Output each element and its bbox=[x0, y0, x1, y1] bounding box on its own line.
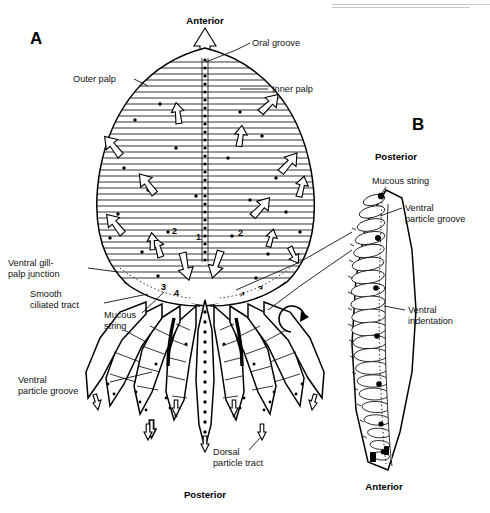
label-ventral-gill-palp-junction-line1: Ventral gill- bbox=[8, 258, 53, 268]
label-mucous-string-line1: Mucous bbox=[104, 310, 137, 320]
label-smooth-ciliated-tract-line1: Smooth bbox=[30, 289, 62, 299]
label-ventral-indentation-line1: Ventral bbox=[408, 305, 437, 315]
panel-b-posterior-label: Posterior bbox=[375, 151, 417, 162]
label-ventral-particle-groove-b-line1: Ventral bbox=[405, 203, 434, 213]
anatomical-diagram: A Anterior bbox=[0, 0, 490, 513]
label-ventral-particle-groove-a-line1: Ventral bbox=[18, 375, 47, 385]
leader-dorsal-particle-tract bbox=[249, 438, 260, 450]
label-mucous-string-line2: string bbox=[104, 321, 126, 331]
label-dorsal-particle-tract-line1: Dorsal bbox=[213, 447, 240, 457]
pathway-number-2-right: 2 bbox=[238, 228, 243, 238]
panel-a: A Anterior bbox=[8, 15, 324, 500]
label-ventral-particle-groove-a-line2: particle groove bbox=[18, 386, 78, 396]
panel-a-anterior-label: Anterior bbox=[186, 15, 224, 26]
label-inner-palp: Inner palp bbox=[272, 84, 313, 94]
scan-artifact-line bbox=[332, 5, 490, 8]
panel-b: B Posterior bbox=[348, 115, 465, 492]
label-ventral-indentation-line2: indentation bbox=[408, 316, 453, 326]
label-dorsal-particle-tract-line2: particle tract bbox=[213, 458, 263, 468]
label-smooth-ciliated-tract-line2: ciliated tract bbox=[30, 300, 79, 310]
pathway-number-3-left: 3 bbox=[161, 282, 166, 292]
pathway-number-2-left: 2 bbox=[172, 226, 177, 236]
pathway-number-1: 1 bbox=[196, 232, 201, 242]
label-outer-palp: Outer palp bbox=[73, 74, 116, 84]
label-ventral-gill-palp-junction-line2: palp junction bbox=[8, 269, 60, 279]
label-oral-groove: Oral groove bbox=[252, 38, 300, 48]
panel-b-letter: B bbox=[412, 115, 424, 134]
figure-canvas: A Anterior bbox=[0, 0, 490, 513]
label-mucous-string-b: Mucous string bbox=[372, 176, 429, 186]
panel-b-anterior-label: Anterior bbox=[365, 481, 403, 492]
panel-a-posterior-label: Posterior bbox=[184, 489, 226, 500]
label-ventral-particle-groove-b-line2: particle groove bbox=[405, 214, 465, 224]
leader-smooth-ciliated-tract bbox=[104, 294, 148, 303]
panel-a-letter: A bbox=[30, 29, 42, 48]
